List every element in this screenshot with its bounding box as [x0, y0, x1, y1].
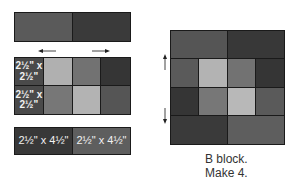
- arrow-right-icon: [92, 48, 110, 54]
- block-square: [171, 59, 199, 87]
- square-light: [73, 86, 102, 114]
- square-medium: [73, 58, 102, 86]
- arrow-up-icon: [162, 54, 168, 70]
- rect-label-right: 2½" x 4½": [73, 128, 130, 154]
- bottom-strip: 2½" x 4½" 2½" x 4½": [14, 127, 131, 155]
- block-rect: [171, 116, 228, 144]
- block-square: [228, 88, 256, 116]
- block-square: [199, 88, 227, 116]
- arrow-left-icon: [38, 48, 56, 54]
- four-patch-strip: 2½" x 2½" 2½" x 2½": [14, 57, 131, 115]
- rect-label-left: 2½" x 4½": [15, 128, 73, 154]
- block-square: [228, 59, 256, 87]
- top-strip: [14, 12, 131, 42]
- caption: B block. Make 4.: [205, 152, 275, 180]
- arrow-down-icon: [162, 108, 168, 124]
- block-rect: [228, 116, 285, 144]
- block-rect: [228, 31, 285, 59]
- square-light: [44, 58, 73, 86]
- square-label: 2½" x 2½": [15, 58, 44, 86]
- caption-line-2: Make 4.: [205, 166, 275, 180]
- block-square: [256, 88, 284, 116]
- block-square: [171, 88, 199, 116]
- top-strip-right: [73, 13, 130, 41]
- block-square: [199, 59, 227, 87]
- block-rect: [171, 31, 228, 59]
- caption-line-1: B block.: [205, 152, 275, 166]
- square-darkest: [101, 58, 130, 86]
- top-strip-left: [15, 13, 73, 41]
- square-medium: [44, 86, 73, 114]
- square-label: 2½" x 2½": [15, 86, 44, 114]
- block-square: [256, 59, 284, 87]
- square-dark: [101, 86, 130, 114]
- b-block: [170, 30, 285, 145]
